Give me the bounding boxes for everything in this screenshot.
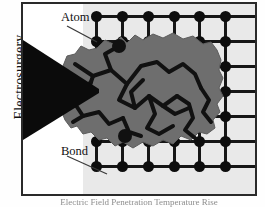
callout-label-atom: Atom (61, 10, 89, 25)
plot-frame: Atom Bond (21, 2, 257, 196)
callout-label-bond: Bond (61, 144, 88, 159)
figure-caption: Electric Field Penetration Temperature R… (21, 197, 257, 207)
callout-leaders (23, 4, 257, 196)
figure-root: Electrosurgery (0, 0, 265, 207)
